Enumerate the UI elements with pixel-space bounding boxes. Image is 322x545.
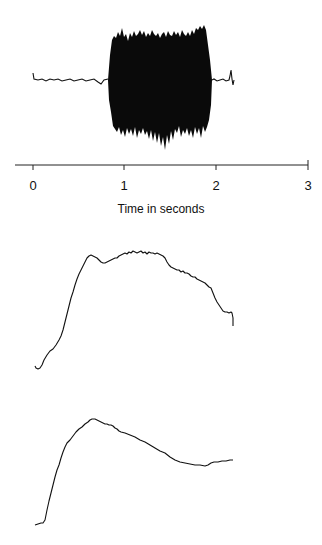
x-tick-label-2: 2 bbox=[212, 178, 219, 193]
x-axis-title: Time in seconds bbox=[118, 202, 205, 216]
waveform-plot bbox=[33, 25, 234, 150]
waveform-burst bbox=[108, 25, 212, 150]
contour-trace-1 bbox=[35, 251, 233, 369]
x-tick-label-1: 1 bbox=[120, 178, 127, 193]
x-tick-label-0: 0 bbox=[29, 178, 36, 193]
waveform-baseline-right bbox=[212, 70, 234, 85]
contour-trace-2 bbox=[35, 419, 233, 525]
figure: 0 1 2 3 Time in seconds bbox=[0, 0, 322, 545]
waveform-baseline-left bbox=[33, 73, 108, 84]
x-tick-label-3: 3 bbox=[304, 178, 311, 193]
time-axis: 0 1 2 3 Time in seconds bbox=[15, 160, 312, 216]
